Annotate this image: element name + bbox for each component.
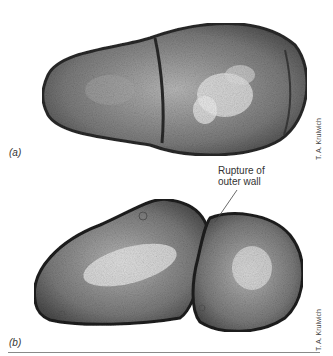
- panel-b-credit: T. A. Krulwich: [315, 309, 322, 351]
- cell-a: [43, 23, 307, 155]
- panel-a-credit: T. A. Krulwich: [315, 118, 322, 160]
- panel-b-label: (b): [9, 337, 21, 348]
- annotation-line-1: Rupture of: [218, 165, 265, 176]
- cell-b: [34, 199, 302, 331]
- micrograph-illustrations: [0, 0, 333, 356]
- bottom-rule: [8, 352, 320, 353]
- rupture-annotation: Rupture of outer wall: [218, 165, 265, 187]
- panel-a-label: (a): [9, 147, 21, 158]
- annotation-line-2: outer wall: [218, 176, 265, 187]
